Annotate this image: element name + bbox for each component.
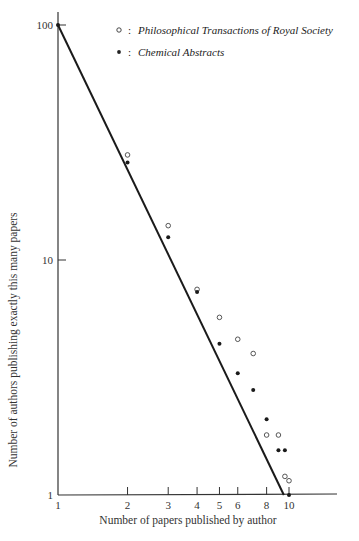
lotka-fit-line: [58, 25, 284, 495]
filled-circle-point: [283, 448, 287, 452]
filled-circle-point: [166, 235, 170, 239]
legend-label: Philosophical Transactions of Royal Soci…: [137, 24, 333, 36]
open-circle-point: [235, 337, 240, 342]
lotka-law-chart: 123456810110100 : Philosophical Transact…: [0, 0, 359, 541]
y-tick-label: 10: [42, 254, 54, 266]
x-tick-label: 6: [235, 499, 241, 511]
filled-circle-point: [251, 388, 255, 392]
legend-item-phil-trans: : Philosophical Transactions of Royal So…: [117, 24, 333, 36]
x-tick-label: 2: [125, 499, 131, 511]
open-circle-point: [251, 351, 256, 356]
open-circle-point: [287, 478, 292, 483]
y-tick-label: 1: [48, 489, 54, 501]
legend: : Philosophical Transactions of Royal So…: [117, 24, 333, 58]
filled-circle-point: [287, 493, 291, 497]
legend-separator: :: [128, 46, 131, 58]
open-circle-icon: [117, 28, 121, 32]
legend-item-chem-abstracts: : Chemical Abstracts: [117, 46, 224, 58]
filled-circle-point: [276, 448, 280, 452]
open-circle-point: [125, 153, 130, 158]
x-tick-label: 8: [264, 499, 270, 511]
x-axis-title: Number of papers published by author: [99, 514, 276, 527]
filled-circle-point: [236, 371, 240, 375]
filled-circle-point: [126, 160, 130, 164]
y-axis-title: Number of authors publishing exactly thi…: [7, 212, 20, 468]
axes: [58, 12, 337, 495]
open-circle-point: [276, 433, 281, 438]
y-tick-label: 100: [37, 19, 54, 31]
filled-circle-point: [265, 417, 269, 421]
legend-separator: :: [128, 24, 131, 36]
open-circle-point: [264, 433, 269, 438]
legend-label: Chemical Abstracts: [138, 46, 224, 58]
x-tick-label: 10: [284, 499, 296, 511]
filled-circle-icon: [117, 50, 121, 54]
x-tick-label: 1: [55, 499, 61, 511]
filled-circle-point: [217, 342, 221, 346]
x-tick-label: 5: [217, 499, 223, 511]
x-tick-label: 3: [165, 499, 171, 511]
filled-circle-point: [195, 290, 199, 294]
fit-line: [58, 25, 284, 495]
open-circle-point: [217, 315, 222, 320]
open-circle-point: [166, 223, 171, 228]
open-circle-point: [283, 474, 288, 479]
filled-circle-point: [56, 23, 60, 27]
x-tick-label: 4: [194, 499, 200, 511]
